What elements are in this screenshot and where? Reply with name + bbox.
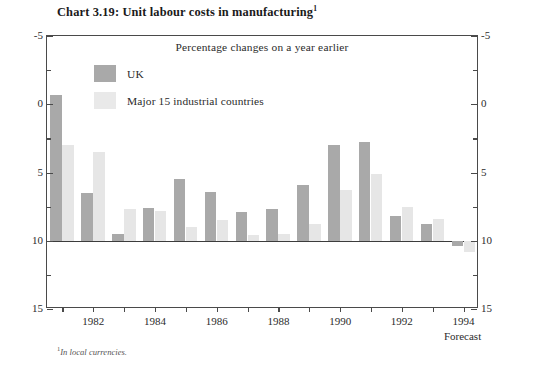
legend-swatch-major [94,92,116,109]
bar-major-1981 [62,145,73,241]
x-tick-1981 [62,307,63,312]
y-tick-left-0 [47,241,53,242]
y-tick-left--5 [47,309,53,310]
legend-swatch-uk [94,65,116,82]
chart-title: Chart 3.19: Unit labour costs in manufac… [57,4,317,20]
y-tick-right-2.5 [473,207,477,208]
x-tick-1994 [464,307,465,312]
y-axis-label-left-5: 5 [38,167,44,178]
y-tick-right-15 [471,36,477,37]
bar-major-1993 [433,219,444,241]
y-tick-left-7.5 [47,138,51,139]
x-axis-label-1984: 1984 [144,315,166,327]
y-tick-right-10 [471,104,477,105]
bar-major-1994 [464,241,475,252]
bar-uk-1987 [236,212,247,241]
chart-footnote: 1In local currencies. [57,345,127,357]
legend-label-major: Major 15 industrial countries [127,95,264,107]
bar-major-1984 [155,211,166,241]
bar-uk-1991 [359,142,370,241]
legend-item-uk: UK [94,65,144,82]
x-tick-1989 [309,307,310,312]
y-tick-right-7.5 [473,138,477,139]
x-axis-label-1988: 1988 [267,315,289,327]
x-axis-label-1982: 1982 [82,315,104,327]
bar-major-1988 [278,234,289,241]
y-tick-right--2.5 [473,275,477,276]
x-tick-1988 [278,307,279,312]
bar-uk-1990 [328,145,339,241]
bar-uk-1982 [81,193,92,241]
x-axis-label-1992: 1992 [391,315,413,327]
x-tick-1990 [340,307,341,312]
legend-item-major: Major 15 industrial countries [94,92,264,109]
y-axis-label-left-15: -5 [34,30,43,41]
bar-major-1986 [217,220,228,240]
bar-major-1989 [309,224,320,240]
y-tick-right-12.5 [473,70,477,71]
bar-uk-1986 [205,192,216,241]
bar-uk-1983 [112,234,123,241]
x-tick-1987 [248,307,249,312]
x-tick-1993 [433,307,434,312]
x-tick-1986 [217,307,218,312]
chart-title-text: Chart 3.19: Unit labour costs in manufac… [57,5,313,19]
bar-major-1992 [402,207,413,241]
y-axis-label-right-5: 5 [481,167,487,178]
bar-uk-1989 [297,185,308,241]
chart-figure: Chart 3.19: Unit labour costs in manufac… [0,0,533,367]
bar-major-1982 [93,152,104,241]
y-tick-left-12.5 [47,70,51,71]
legend-label-uk: UK [127,68,144,80]
y-tick-left--2.5 [47,275,51,276]
chart-title-footnote-marker: 1 [313,4,317,13]
y-tick-left-15 [47,36,53,37]
footnote-text: In local currencies. [60,347,127,357]
x-axis-label-1990: 1990 [329,315,351,327]
forecast-annotation: Forecast [444,330,481,342]
x-tick-1985 [186,307,187,312]
y-axis-label-left-0: 10 [32,235,43,246]
y-axis-label-right--5: 15 [481,303,492,314]
y-tick-left-5 [47,173,53,174]
bar-uk-1994 [452,241,463,246]
bar-major-1991 [371,174,382,241]
y-tick-right-0 [471,241,477,242]
x-axis-label-1986: 1986 [206,315,228,327]
y-axis-label-right-0: 10 [481,235,492,246]
y-tick-right-5 [471,173,477,174]
x-tick-1982 [93,307,94,312]
y-axis-label-left-10: 0 [38,98,44,109]
bar-major-1983 [124,209,135,240]
bar-uk-1988 [266,209,277,240]
y-axis-label-right-10: 0 [481,98,487,109]
x-axis-label-1994: 1994 [453,315,475,327]
bar-uk-1992 [390,216,401,241]
bar-uk-1984 [143,208,154,241]
bar-major-1987 [248,235,259,240]
bar-major-1985 [186,227,197,241]
x-tick-1992 [402,307,403,312]
y-tick-left-2.5 [47,207,51,208]
y-tick-left-10 [47,104,53,105]
x-tick-1984 [155,307,156,312]
x-tick-1983 [124,307,125,312]
y-axis-label-left--5: 15 [32,303,43,314]
y-tick-right--5 [471,309,477,310]
y-axis-label-right-15: -5 [481,30,490,41]
bar-major-1990 [340,190,351,241]
bar-uk-1985 [174,179,185,240]
bar-uk-1993 [421,224,432,240]
bar-uk-1981 [50,95,61,241]
x-tick-1991 [371,307,372,312]
